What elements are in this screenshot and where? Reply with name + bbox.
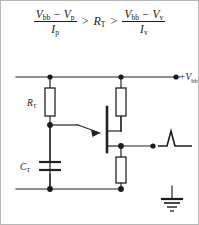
junction-dot-b1-ground [118,186,124,192]
ct-label: CT [20,162,30,173]
ground-symbol-icon [161,199,183,211]
base2-resistor [116,88,126,116]
supply-label-subscript: bb [191,77,198,84]
junction-dot-rail-rt [47,74,52,79]
base1-resistor [116,157,126,183]
junction-dot-ct-ground [47,186,53,192]
circuit-schematic: RT CT +Vbb [0,0,199,225]
rt-label-subscript: T [33,102,37,109]
junction-dot-b1-output [118,143,124,149]
supply-label: +Vbb [179,72,198,84]
rt-label: RT [26,98,37,109]
figure-container: Vbb − Vp Ip > RT > Vbb − Vv Iv [0,0,199,225]
terminal-dot-supply [173,74,178,79]
ujt-emitter-arrow-icon [91,130,100,138]
terminal-dot-output [150,143,155,148]
output-pulse-waveform [158,131,192,146]
timing-resistor-rt [45,88,55,116]
junction-dot-rail-b2 [118,74,123,79]
junction-dot-emitter-node [47,122,53,128]
figure-border [1,1,199,225]
ct-label-subscript: T [26,166,30,173]
